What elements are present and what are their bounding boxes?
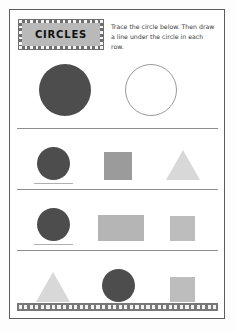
banner-tick [68,20,71,23]
footer-tick [191,305,194,309]
banner-tick [30,20,33,23]
banner-tick [63,20,66,23]
footer-tick [80,305,83,309]
banner-tick [57,20,60,23]
banner-tick [19,46,22,49]
banner-tick [73,20,76,23]
shape-cell-square[interactable] [98,138,138,184]
circle-filled [37,147,70,180]
banner-tick [41,20,44,23]
title-banner-inner: CIRCLES [22,23,100,46]
banner-tick [19,31,22,34]
banner-tick [100,42,103,45]
banner-tick [46,20,49,23]
square-shape [104,152,132,180]
footer-tick [30,305,33,309]
worksheet-page: CIRCLES Trace the circle below. Then dra… [0,0,236,331]
footer-tick [74,305,77,309]
banner-tick [25,20,28,23]
footer-tick [169,305,172,309]
banner-tick [90,20,93,23]
footer-tick [96,305,99,309]
footer-tick [63,305,66,309]
footer-tick [41,305,44,309]
footer-tick [119,305,122,309]
banner-tick [84,46,87,49]
footer-tick [197,305,200,309]
circle-outline [125,64,177,116]
footer-tick [146,305,149,309]
triangle-shape [36,272,70,302]
banner-tick [19,37,22,40]
banner-tick [19,26,22,29]
circle-filled [102,269,135,302]
shape-cell-circle[interactable] [98,260,138,306]
footer-tick [180,305,183,309]
banner-tick [52,20,55,23]
square-shape [170,277,195,302]
banner-tick [25,46,28,49]
answer-line-drawn[interactable] [34,183,73,184]
square-shape [170,216,195,241]
banner-tick [100,46,103,49]
banner-tick [68,46,71,49]
footer-tick [24,305,27,309]
footer-decorative-band [17,303,218,311]
footer-tick [124,305,127,309]
worksheet-header: CIRCLES Trace the circle below. Then dra… [10,10,226,58]
banner-tick [73,46,76,49]
footer-tick [213,305,216,309]
banner-tick [84,20,87,23]
shape-cell-circle[interactable] [33,199,73,245]
footer-tick [158,305,161,309]
worksheet-row [10,254,226,306]
banner-tick [19,20,22,23]
circle-filled [37,208,70,241]
footer-tick [163,305,166,309]
row-divider [17,189,218,190]
banner-tick [46,46,49,49]
footer-tick [113,305,116,309]
banner-tick [41,46,44,49]
footer-tick [91,305,94,309]
footer-tick [52,305,55,309]
footer-tick [185,305,188,309]
footer-tick [85,305,88,309]
banner-tick [52,46,55,49]
banner-tick [79,46,82,49]
banner-tick [95,20,98,23]
instructions-text: Trace the circle below. Then draw a line… [111,22,217,52]
shape-cell-circle[interactable] [39,64,91,120]
shape-cell-circle[interactable] [125,64,177,120]
answer-line-drawn[interactable] [34,244,73,245]
rectangle-shape [98,215,144,241]
banner-tick [19,42,22,45]
banner-tick [100,26,103,29]
banner-tick [30,46,33,49]
footer-tick [46,305,49,309]
footer-tick [141,305,144,309]
banner-tick [36,46,39,49]
circle-filled [39,64,91,116]
shape-cell-circle[interactable] [33,138,73,184]
shape-cell-triangle[interactable] [33,260,73,306]
worksheet-row [10,58,226,120]
shape-cell-rectangle[interactable] [98,199,144,245]
footer-tick [69,305,72,309]
page-title: CIRCLES [35,30,87,40]
footer-tick [57,305,60,309]
footer-tick [202,305,205,309]
banner-tick [57,46,60,49]
banner-tick [63,46,66,49]
footer-tick [135,305,138,309]
footer-tick [208,305,211,309]
shape-cell-square[interactable] [162,199,202,245]
shape-cell-triangle[interactable] [163,138,203,184]
banner-tick [90,46,93,49]
shape-cell-square[interactable] [162,260,202,306]
banner-tick [36,20,39,23]
footer-tick [108,305,111,309]
footer-tick [130,305,133,309]
footer-tick [152,305,155,309]
banner-tick [100,31,103,34]
